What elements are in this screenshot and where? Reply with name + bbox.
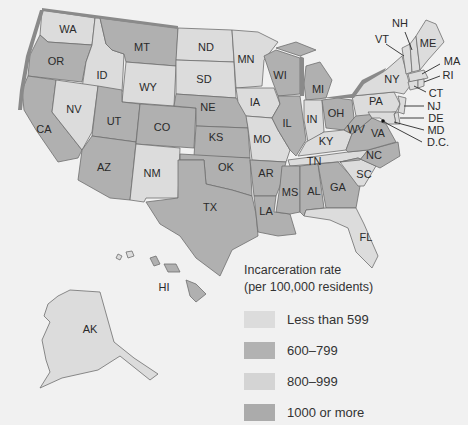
legend-label: 600–799	[287, 343, 338, 358]
label-va: VA	[371, 127, 386, 139]
state-hi[interactable]	[116, 251, 206, 302]
label-ct: CT	[429, 87, 444, 99]
legend-label: 1000 or more	[287, 405, 364, 420]
leader-md	[394, 122, 424, 130]
label-me: ME	[420, 37, 437, 49]
label-de: DE	[428, 112, 443, 124]
label-ny: NY	[384, 73, 400, 85]
label-ma: MA	[444, 55, 461, 67]
label-al: AL	[307, 185, 320, 197]
label-ky: KY	[319, 135, 334, 147]
state-ak[interactable]	[40, 290, 158, 388]
label-mn: MN	[237, 53, 254, 65]
legend-swatch	[244, 404, 275, 421]
label-az: AZ	[97, 161, 111, 173]
label-ar: AR	[258, 167, 273, 179]
leader-vt	[386, 44, 404, 56]
label-nh: NH	[392, 17, 408, 29]
label-ca: CA	[36, 123, 52, 135]
label-nj: NJ	[427, 100, 440, 112]
label-wa: WA	[59, 23, 77, 35]
label-pa: PA	[369, 95, 384, 107]
legend: Incarceration rate (per 100,000 resident…	[244, 262, 464, 425]
label-hi: HI	[159, 281, 170, 293]
dc-marker	[381, 119, 385, 123]
label-id: ID	[97, 69, 108, 81]
label-oh: OH	[328, 107, 345, 119]
legend-title-line2: (per 100,000 residents)	[244, 279, 464, 296]
label-la: LA	[259, 205, 273, 217]
label-tx: TX	[203, 201, 218, 213]
legend-item-1000-plus: 1000 or more	[244, 397, 464, 425]
legend-title-line1: Incarceration rate	[244, 262, 464, 279]
state-ri[interactable]	[418, 79, 424, 88]
label-nv: NV	[66, 103, 82, 115]
legend-label: Less than 599	[287, 312, 369, 327]
state-ct[interactable]	[408, 80, 418, 90]
label-ri: RI	[443, 69, 454, 81]
label-ia: IA	[250, 96, 261, 108]
label-ks: KS	[209, 131, 224, 143]
label-ne: NE	[200, 101, 215, 113]
label-sd: SD	[196, 73, 211, 85]
legend-swatch	[244, 342, 275, 359]
label-or: OR	[48, 55, 65, 67]
label-fl: FL	[360, 231, 373, 243]
label-ms: MS	[282, 186, 299, 198]
legend-swatch	[244, 373, 275, 390]
legend-item-under-599: Less than 599	[244, 304, 464, 335]
label-in: IN	[307, 113, 318, 125]
legend-item-800-999: 800–999	[244, 366, 464, 397]
leader-ma	[422, 64, 440, 74]
label-il: IL	[282, 117, 291, 129]
label-mi: MI	[312, 83, 324, 95]
label-mo: MO	[253, 133, 271, 145]
label-nc: NC	[366, 149, 382, 161]
legend-title: Incarceration rate (per 100,000 resident…	[244, 262, 464, 296]
state-ny[interactable]	[352, 56, 410, 96]
label-vt: VT	[375, 33, 389, 45]
label-ut: UT	[107, 115, 122, 127]
label-ak: AK	[83, 323, 98, 335]
label-wv: WV	[347, 123, 365, 135]
label-ga: GA	[330, 181, 347, 193]
label-nd: ND	[198, 41, 214, 53]
label-co: CO	[154, 121, 171, 133]
label-wi: WI	[273, 69, 286, 81]
legend-swatch	[244, 311, 275, 328]
legend-label: 800–999	[287, 374, 338, 389]
label-ok: OK	[218, 161, 235, 173]
label-md: MD	[427, 124, 444, 136]
label-nm: NM	[143, 167, 160, 179]
legend-item-600-799: 600–799	[244, 335, 464, 366]
label-wy: WY	[139, 81, 157, 93]
label-mt: MT	[134, 41, 150, 53]
label-sc: SC	[356, 168, 371, 180]
label-dc: D.C.	[427, 136, 449, 148]
label-tn: TN	[307, 155, 322, 167]
